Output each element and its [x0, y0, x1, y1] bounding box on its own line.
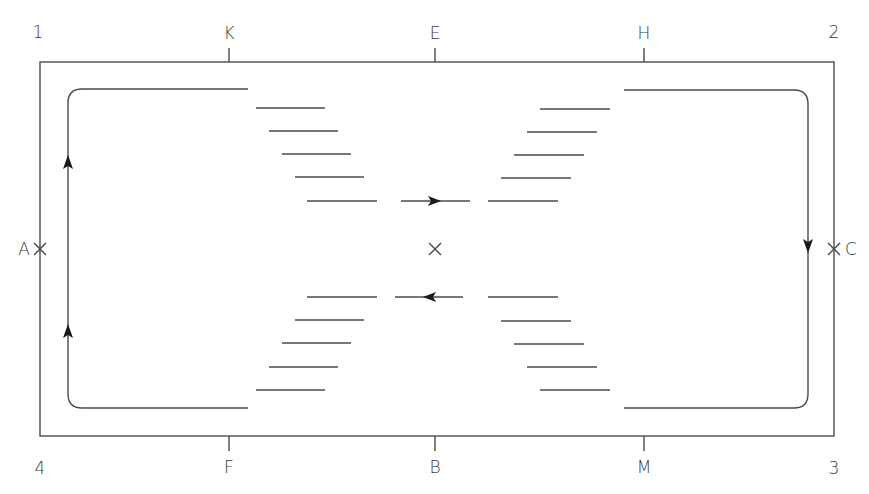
- corner-label-4: 4: [35, 460, 46, 477]
- point-label-A: A: [18, 241, 30, 258]
- point-label-H: H: [638, 25, 651, 42]
- center-cross-marker: [429, 243, 441, 255]
- outer-frame: [40, 62, 834, 436]
- point-label-K: K: [223, 25, 234, 42]
- hatch-upper-left: [256, 108, 377, 201]
- hatch-upper-right: [488, 109, 610, 201]
- corner-label-2: 2: [829, 24, 840, 41]
- hatch-lower-left: [256, 297, 377, 390]
- right-flow-path: [624, 90, 808, 408]
- point-label-C: C: [845, 241, 857, 258]
- corner-label-1: 1: [33, 24, 44, 41]
- point-label-F: F: [224, 459, 234, 476]
- point-label-E: E: [430, 25, 441, 42]
- diagram-canvas: [0, 0, 869, 494]
- point-label-M: M: [637, 459, 652, 476]
- left-flow-path: [68, 89, 248, 408]
- corner-label-3: 3: [829, 460, 840, 477]
- point-label-B: B: [429, 459, 440, 476]
- hatch-lower-right: [488, 297, 610, 390]
